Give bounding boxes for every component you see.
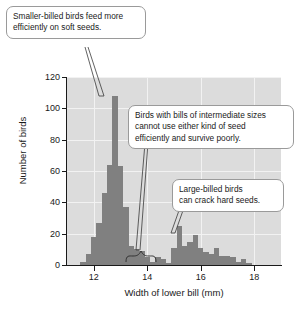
callout-intermediate-line-1: Birds with bills of intermediate sizes <box>135 110 287 121</box>
callout-large-billed-line-2: can crack hard seeds. <box>179 195 277 206</box>
y-tick-label-60: 60 <box>50 167 60 176</box>
y-tick-40 <box>62 202 67 203</box>
callout-large-billed: Large-billed birds can crack hard seeds. <box>172 179 284 212</box>
callout-intermediate-line-2: cannot use either kind of seed <box>135 121 287 132</box>
y-tick-label-120: 120 <box>45 73 60 82</box>
callout-smaller-billed-line-1: Smaller-billed birds feed more <box>13 11 139 22</box>
x-tick-12 <box>94 266 95 271</box>
x-tick-label-14: 14 <box>135 272 159 282</box>
callout-intermediate-line-3: efficiently and survive poorly. <box>135 133 287 144</box>
gridline-y-120 <box>67 77 281 78</box>
callout-smaller-billed: Smaller-billed birds feed more efficient… <box>6 6 146 39</box>
y-tick-label-0: 0 <box>55 261 60 270</box>
y-tick-label-20: 20 <box>50 230 60 239</box>
y-tick-60 <box>62 171 67 172</box>
callout-large-billed-line-1: Large-billed birds <box>179 184 277 195</box>
x-tick-18 <box>254 266 255 271</box>
y-axis-title: Number of birds <box>17 86 28 216</box>
x-tick-label-18: 18 <box>242 272 266 282</box>
y-tick-80 <box>62 140 67 141</box>
callout-intermediate: Birds with bills of intermediate sizes c… <box>128 105 294 149</box>
x-tick-label-12: 12 <box>82 272 106 282</box>
y-tick-120 <box>62 77 67 78</box>
x-axis-title: Width of lower bill (mm) <box>67 287 281 298</box>
y-tick-0 <box>62 265 67 266</box>
y-tick-label-40: 40 <box>50 198 60 207</box>
y-tick-100 <box>62 108 67 109</box>
y-tick-20 <box>62 234 67 235</box>
gridline-y-60 <box>67 171 281 172</box>
histogram-figure: 020406080100120 12141618 Number of birds… <box>0 0 298 311</box>
y-tick-label-100: 100 <box>45 104 60 113</box>
x-tick-16 <box>201 266 202 271</box>
y-tick-label-80: 80 <box>50 136 60 145</box>
x-axis-line <box>66 265 282 266</box>
callout-smaller-billed-line-2: efficiently on soft seeds. <box>13 22 139 33</box>
x-tick-14 <box>147 266 148 271</box>
x-tick-label-16: 16 <box>189 272 213 282</box>
